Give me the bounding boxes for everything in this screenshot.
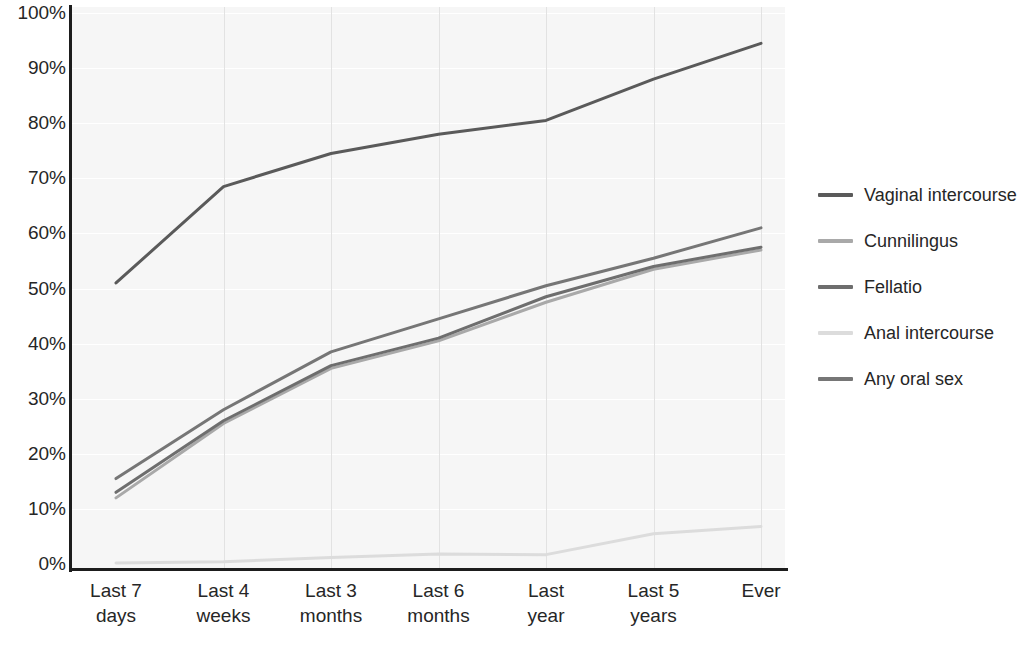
y-tick-label: 20% xyxy=(4,443,66,465)
x-tick-label-line: years xyxy=(628,603,680,628)
legend-item[interactable]: Fellatio xyxy=(818,264,1012,310)
legend-color-swatch xyxy=(818,331,853,335)
x-tick-label: Last 4weeks xyxy=(197,578,251,628)
y-tick-label: 80% xyxy=(4,112,66,134)
y-tick-label: 10% xyxy=(4,498,66,520)
y-axis-tick-labels: 0%10%20%30%40%50%60%70%80%90%100% xyxy=(0,7,66,570)
series-line xyxy=(116,250,761,498)
plot-area xyxy=(72,7,785,570)
y-axis-line xyxy=(69,5,72,572)
chart-legend: Vaginal intercourseCunnilingusFellatioAn… xyxy=(818,172,1012,402)
legend-color-swatch xyxy=(818,193,853,197)
series-line xyxy=(116,527,761,563)
x-tick-label-line: months xyxy=(407,603,469,628)
legend-item-label: Any oral sex xyxy=(864,369,963,390)
x-axis-line xyxy=(69,568,788,571)
y-tick-label: 60% xyxy=(4,222,66,244)
x-tick-label: Ever xyxy=(741,578,780,603)
y-tick-label: 0% xyxy=(4,553,66,575)
legend-item[interactable]: Cunnilingus xyxy=(818,218,1012,264)
x-tick-label-line: Ever xyxy=(741,578,780,603)
y-tick-label: 70% xyxy=(4,167,66,189)
x-tick-label-line: Last 3 xyxy=(300,578,362,603)
legend-color-swatch xyxy=(818,239,853,243)
series-line xyxy=(116,247,761,492)
x-tick-label: Lastyear xyxy=(528,578,565,628)
x-tick-label-line: year xyxy=(528,603,565,628)
x-tick-label-line: days xyxy=(90,603,142,628)
x-tick-label-line: Last xyxy=(528,578,565,603)
legend-color-swatch xyxy=(818,377,853,381)
legend-item[interactable]: Vaginal intercourse xyxy=(818,172,1012,218)
x-tick-label-line: months xyxy=(300,603,362,628)
legend-item-label: Fellatio xyxy=(864,277,922,298)
x-tick-label: Last 5years xyxy=(628,578,680,628)
legend-color-swatch xyxy=(818,285,853,289)
legend-item[interactable]: Anal intercourse xyxy=(818,310,1012,356)
legend-item-label: Anal intercourse xyxy=(864,323,994,344)
series-lines xyxy=(72,7,785,570)
legend-item-label: Vaginal intercourse xyxy=(864,185,1017,206)
x-tick-label-line: Last 5 xyxy=(628,578,680,603)
y-tick-label: 30% xyxy=(4,388,66,410)
y-tick-label: 40% xyxy=(4,333,66,355)
x-tick-label: Last 3months xyxy=(300,578,362,628)
x-tick-label-line: Last 6 xyxy=(407,578,469,603)
legend-item[interactable]: Any oral sex xyxy=(818,356,1012,402)
y-tick-label: 90% xyxy=(4,57,66,79)
x-tick-label-line: Last 4 xyxy=(197,578,251,603)
x-tick-label: Last 6months xyxy=(407,578,469,628)
x-tick-label: Last 7days xyxy=(90,578,142,628)
series-line xyxy=(116,43,761,283)
x-axis-tick-labels: Last 7daysLast 4weeksLast 3monthsLast 6m… xyxy=(72,578,785,640)
x-tick-label-line: Last 7 xyxy=(90,578,142,603)
x-tick-label-line: weeks xyxy=(197,603,251,628)
y-tick-label: 100% xyxy=(4,2,66,24)
y-tick-label: 50% xyxy=(4,278,66,300)
legend-item-label: Cunnilingus xyxy=(864,231,958,252)
